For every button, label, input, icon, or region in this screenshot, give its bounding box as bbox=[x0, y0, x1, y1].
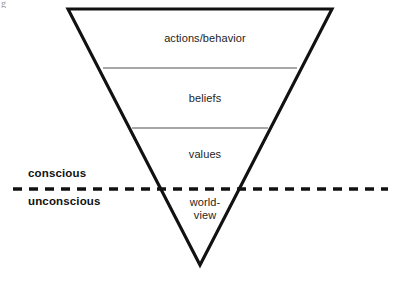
tier-label-actions-behavior: actions/behavior bbox=[130, 32, 280, 45]
tier-label-values: values bbox=[145, 148, 265, 161]
state-label-conscious: conscious bbox=[28, 167, 86, 179]
diagram-canvas: g actions/behavior beliefs values world-… bbox=[0, 0, 396, 281]
inverted-triangle-outline bbox=[68, 9, 332, 265]
tier-label-beliefs: beliefs bbox=[140, 92, 270, 105]
tier-label-worldview: world- view bbox=[160, 196, 250, 222]
state-label-unconscious: unconscious bbox=[28, 195, 101, 207]
